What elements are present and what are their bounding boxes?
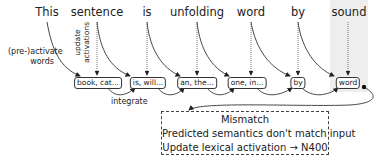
sentence-word-2: sentence <box>71 6 124 19</box>
preactivate-arrow-6 <box>298 22 334 76</box>
sentence-word-1: This <box>35 6 59 19</box>
sentence-word-3: is <box>142 6 151 19</box>
mismatch-box: Mismatch Predicted semantics don't match… <box>161 111 329 155</box>
mismatch-line2: Update lexical activation → N400 <box>162 141 328 155</box>
prediction-box-4: one, in... <box>228 77 267 89</box>
preactivate-arrow-2 <box>97 22 130 76</box>
mismatch-line1: Predicted semantics don't match input <box>162 127 328 141</box>
prediction-box-5: by <box>290 77 305 89</box>
preactivate-label: (pre-)activate words <box>8 47 54 66</box>
sentence-word-6: by <box>291 6 305 19</box>
preactivate-arrow-4 <box>197 22 229 76</box>
preactivate-label-line2: words <box>8 57 54 67</box>
preactivate-label-line1: (pre-)activate <box>8 47 54 57</box>
prediction-box-3: an, the... <box>177 77 217 89</box>
prediction-box-2: is, will... <box>130 77 166 89</box>
integrate-label: integrate <box>111 97 148 107</box>
mismatch-title: Mismatch <box>162 113 328 127</box>
update-label-line1: update <box>73 22 82 63</box>
update-activations-label: update activations <box>73 22 91 63</box>
sentence-word-4: unfolding <box>170 6 224 19</box>
mismatch-origin-dot <box>362 85 366 89</box>
sentence-word-7-current: sound <box>332 6 367 19</box>
sentence-word-5: word <box>237 6 265 19</box>
prediction-box-6: word <box>336 77 360 89</box>
prediction-box-1: book, cat... <box>74 77 122 89</box>
preactivate-arrow-3 <box>147 22 180 76</box>
preactivate-arrow-5 <box>251 22 290 76</box>
update-label-line2: activations <box>82 22 91 63</box>
